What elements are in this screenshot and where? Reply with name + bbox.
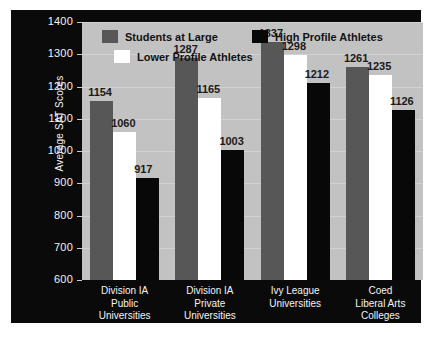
legend-item[interactable]: Lower Profile Athletes bbox=[114, 50, 253, 63]
bar bbox=[346, 67, 369, 280]
y-tick-label: 1300 bbox=[29, 48, 73, 59]
bar-value-label: 1261 bbox=[344, 53, 368, 64]
y-tick-label: 1400 bbox=[29, 16, 73, 27]
bar-value-label: 1126 bbox=[390, 96, 414, 107]
plot-area: 1154106091712871165100313371298121212611… bbox=[82, 22, 423, 280]
bar bbox=[307, 83, 330, 280]
bar bbox=[392, 110, 415, 280]
y-tick-label: 1000 bbox=[29, 145, 73, 156]
legend-item-label: High Profile Athletes bbox=[275, 31, 383, 43]
y-tick-label: 900 bbox=[29, 177, 73, 188]
x-category-label: CoedLiberal ArtsColleges bbox=[331, 285, 430, 323]
y-tick-label: 1100 bbox=[29, 113, 73, 124]
bar bbox=[136, 178, 159, 280]
x-category-label-line: Liberal Arts bbox=[331, 298, 430, 311]
legend-item[interactable]: Students at Large bbox=[102, 30, 218, 43]
x-category-label-line: Colleges bbox=[331, 310, 430, 323]
x-category-label-line: Coed bbox=[331, 285, 430, 298]
y-tick-label: 800 bbox=[29, 210, 73, 221]
bar-value-label: 1165 bbox=[196, 84, 220, 95]
legend-item-label: Students at Large bbox=[125, 31, 218, 43]
bar bbox=[261, 42, 284, 280]
chart-panel: Average SAT Scores 140013001200110010009… bbox=[11, 10, 421, 323]
chart-figure: Average SAT Scores 140013001200110010009… bbox=[0, 0, 434, 340]
y-tick-label: 700 bbox=[29, 242, 73, 253]
legend-item-label: Lower Profile Athletes bbox=[137, 51, 253, 63]
bar bbox=[284, 55, 307, 280]
y-tick-mark bbox=[77, 280, 82, 281]
bar bbox=[175, 58, 198, 280]
y-tick-label: 600 bbox=[29, 274, 73, 285]
bar bbox=[198, 98, 221, 280]
legend-swatch-icon bbox=[252, 30, 268, 43]
bar-value-label: 1212 bbox=[305, 69, 329, 80]
x-category-label-line: Universities bbox=[160, 310, 259, 323]
bar bbox=[113, 132, 136, 280]
gridline bbox=[82, 22, 423, 23]
bar-value-label: 917 bbox=[134, 164, 152, 175]
bar bbox=[221, 150, 244, 280]
bar-value-label: 1154 bbox=[88, 87, 112, 98]
bar bbox=[90, 101, 113, 280]
legend-item[interactable]: High Profile Athletes bbox=[252, 30, 383, 43]
bar-value-label: 1235 bbox=[367, 61, 391, 72]
bar bbox=[369, 75, 392, 280]
bar-value-label: 1003 bbox=[219, 136, 243, 147]
legend-swatch-icon bbox=[102, 30, 118, 43]
bar-value-label: 1060 bbox=[111, 118, 135, 129]
y-tick-label: 1200 bbox=[29, 81, 73, 92]
legend-swatch-icon bbox=[114, 50, 130, 63]
